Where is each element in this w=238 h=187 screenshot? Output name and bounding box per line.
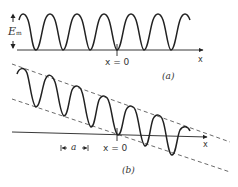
panel-b-lower-envelope: [12, 99, 230, 172]
panel-a-axis-label: x: [198, 56, 203, 64]
panel-a-wave: [19, 14, 190, 50]
amplitude-symbol: E: [8, 25, 16, 38]
panel-a: [11, 14, 204, 57]
panel-a-origin-label: x = 0: [105, 58, 129, 67]
amplitude-subscript: m: [16, 29, 22, 36]
panel-b: [12, 64, 230, 172]
panel-a-caption: (a): [162, 72, 174, 81]
panel-b-origin-label: x = 0: [103, 144, 127, 153]
panel-b-axis-label: x: [203, 141, 208, 149]
panel-b-caption: (b): [122, 166, 135, 175]
spacing-label: a: [71, 143, 76, 152]
diagram-canvas: [0, 0, 238, 187]
amplitude-label: Em: [8, 26, 22, 37]
